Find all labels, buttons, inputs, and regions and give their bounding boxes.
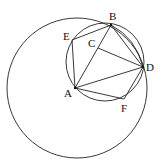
point-b — [110, 24, 112, 26]
point-d — [142, 66, 144, 68]
label-a: A — [64, 87, 72, 99]
label-c: C — [88, 37, 95, 49]
label-f: F — [121, 102, 127, 114]
label-b: B — [109, 10, 116, 22]
segment-ae — [72, 40, 75, 88]
label-e: E — [63, 30, 70, 42]
geometry-diagram: A B C D E F — [0, 0, 162, 165]
label-d: D — [146, 61, 154, 73]
point-a — [74, 87, 76, 89]
